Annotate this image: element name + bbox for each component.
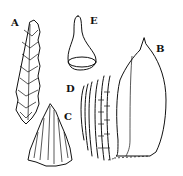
- label-d: D: [66, 83, 75, 94]
- label-e: E: [90, 15, 98, 26]
- panel-a-shoot: A: [10, 17, 40, 124]
- panel-d-cells: D: [66, 76, 116, 160]
- panel-e-calyptra: E: [68, 15, 98, 70]
- label-b: B: [156, 43, 164, 54]
- botanical-figure: A E B D C: [0, 0, 183, 176]
- panel-b-leaf: B: [114, 38, 166, 158]
- label-c: C: [64, 111, 72, 122]
- label-a: A: [10, 17, 19, 28]
